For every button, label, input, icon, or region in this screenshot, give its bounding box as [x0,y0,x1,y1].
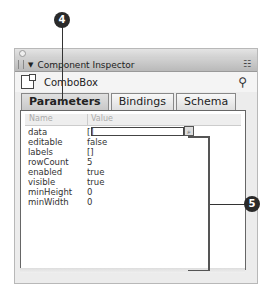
collapse-triangle-icon[interactable]: ▼ [28,61,33,69]
param-name: labels [28,147,87,157]
panel-menu-icon[interactable]: ☷ [243,59,251,69]
param-name: enabled [28,167,87,177]
component-name: ComboBox [44,77,98,88]
help-icon[interactable]: ⚲ [238,75,247,89]
component-row: ComboBox ⚲ [15,72,257,92]
param-value[interactable]: 0 [87,187,242,197]
drag-grip-icon[interactable] [18,60,24,69]
tab-bindings[interactable]: Bindings [111,93,174,110]
tab-schema[interactable]: Schema [176,93,236,110]
param-name: data [28,127,87,137]
param-name: editable [28,137,87,147]
param-value[interactable]: true [87,167,242,177]
param-value[interactable]: [] [87,147,242,157]
callout-5-badge: 5 [244,196,260,212]
panel-bottom-strip [20,268,245,273]
param-value[interactable]: 0 [87,197,242,207]
param-name: visible [28,177,87,187]
parameters-grid: Name Value ⌕ data[] editablefalse labels… [20,110,246,270]
param-value[interactable]: false [87,137,242,147]
inspector-tabs: Parameters Bindings Schema [21,93,238,109]
tab-parameters[interactable]: Parameters [21,93,109,110]
column-header-name[interactable]: Name [25,114,88,125]
panel-titlebar[interactable]: ▼ Component Inspector ☷ [15,58,257,72]
component-inspector-panel: ▼ Component Inspector ☷ ComboBox ⚲ Param… [14,48,258,284]
close-circle-icon[interactable] [19,50,26,57]
param-name: minWidth [28,197,87,207]
grid-header: Name Value [25,114,241,126]
param-value[interactable]: true [87,177,242,187]
param-name: minHeight [28,187,87,197]
param-value[interactable]: 5 [87,157,242,167]
param-name: rowCount [28,157,87,167]
column-header-value[interactable]: Value [88,114,113,125]
callout-4-line [62,20,63,102]
callout-4-badge: 4 [54,12,70,28]
highlight-bracket [188,136,210,271]
component-icon [21,75,34,89]
panel-title: Component Inspector [37,60,134,70]
param-value[interactable]: [] [87,127,242,137]
